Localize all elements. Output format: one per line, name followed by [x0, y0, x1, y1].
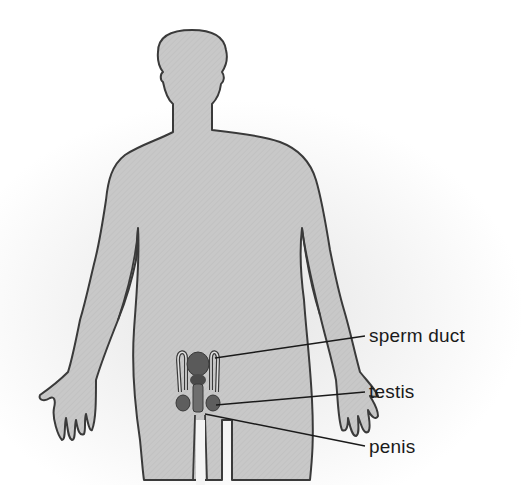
testis-right — [206, 395, 220, 411]
leg-gap — [196, 420, 205, 485]
penis — [193, 384, 203, 412]
testis-left — [176, 395, 190, 411]
label-testis: testis — [369, 382, 415, 401]
label-sperm-duct: sperm duct — [369, 326, 465, 345]
label-penis: penis — [369, 437, 415, 456]
bladder — [187, 352, 209, 376]
body-diagram — [0, 0, 523, 485]
